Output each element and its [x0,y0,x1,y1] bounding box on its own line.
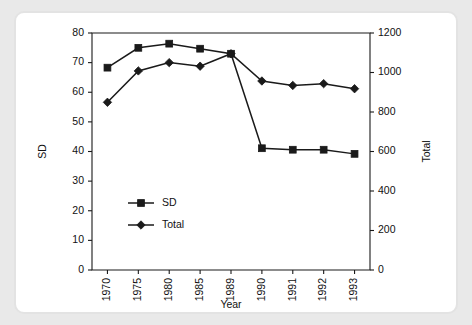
y-axis-right-tick-label: 800 [378,105,396,117]
x-axis-title: Year [220,298,242,310]
y-axis-right-tick-label: 400 [378,184,396,196]
data-point-total [165,58,173,66]
x-axis-tick-label: 1980 [162,278,174,302]
x-axis-tick-label: 1992 [316,278,328,302]
y-axis-left-tick-label: 60 [72,85,84,97]
data-point-sd [197,45,204,52]
legend: SDTotal [128,196,184,230]
y-axis-right-tick-label: 600 [378,144,396,156]
y-axis-left-tick-label: 80 [72,26,84,38]
data-point-total [319,79,327,87]
data-point-sd [135,44,142,51]
y-axis-left-tick-label: 30 [72,174,84,186]
y-axis-left-title: SD [36,144,48,159]
x-axis-tick-label: 1991 [286,278,298,302]
legend-marker-diamond [137,221,145,229]
x-axis-tick-label: 1970 [100,278,112,302]
y-axis-left-tick-label: 20 [72,204,84,216]
y-axis-right: 020040060080010001200Total [370,26,432,275]
x-axis-tick-label: 1993 [347,278,359,302]
data-point-sd [258,145,265,152]
data-point-sd [104,64,111,71]
plot-border [92,33,370,270]
y-axis-left-tick-label: 40 [72,144,84,156]
legend-label-sd: SD [162,196,177,208]
x-axis: 197019751980198519891990199119921993Year [100,270,359,310]
data-point-total [350,84,358,92]
y-axis-right-tick-label: 0 [378,263,384,275]
figure-card: 01020304050607080SD020040060080010001200… [14,11,458,314]
data-point-sd [320,146,327,153]
data-point-sd [289,146,296,153]
x-axis-tick-label: 1985 [193,278,205,302]
y-axis-left-tick-label: 70 [72,55,84,67]
y-axis-left-tick-label: 50 [72,115,84,127]
legend-marker-square [138,200,145,207]
y-axis-right-tick-label: 1000 [378,65,402,77]
x-axis-tick-label: 1990 [255,278,267,302]
series-line-sd [107,44,354,154]
data-point-sd [166,40,173,47]
y-axis-right-title: Total [420,140,432,162]
y-axis-right-tick-label: 200 [378,223,396,235]
y-axis-right-tick-label: 1200 [378,26,402,38]
series-line-total [107,54,354,103]
chart-canvas: 01020304050607080SD020040060080010001200… [16,13,460,316]
line-chart: 01020304050607080SD020040060080010001200… [16,13,460,316]
data-point-total [289,81,297,89]
data-point-total [196,62,204,70]
legend-label-total: Total [162,218,184,230]
plot-frame [92,33,370,270]
x-axis-tick-label: 1975 [131,278,143,302]
data-point-sd [351,150,358,157]
y-axis-left: 01020304050607080SD [36,26,92,275]
series-total [103,50,359,107]
y-axis-left-tick-label: 10 [72,233,84,245]
y-axis-left-tick-label: 0 [78,263,84,275]
